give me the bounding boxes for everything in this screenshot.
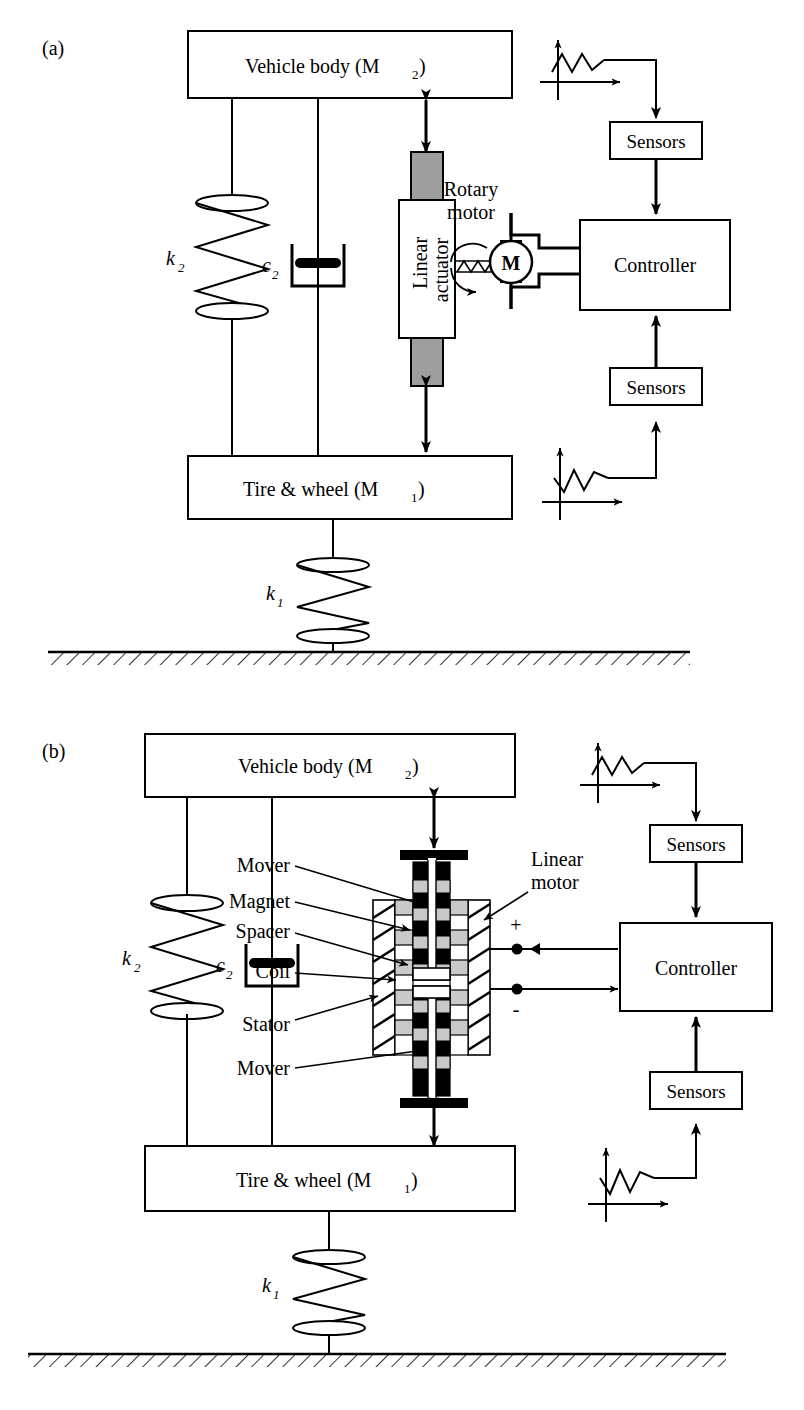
controller-label-b: Controller	[655, 957, 738, 979]
controller-box-b: Controller	[620, 923, 772, 1011]
vehicle-body-close-a: )	[419, 55, 426, 78]
tire-wheel-label-b: Tire & wheel (M	[236, 1169, 372, 1192]
tire-wheel-close-a: )	[418, 478, 425, 501]
panel-b-label: (b)	[42, 740, 65, 763]
sensors-bottom-label-b: Sensors	[666, 1081, 725, 1102]
spring-k2-label-b: k	[122, 947, 132, 969]
mover-bottom-plate-b	[400, 1098, 468, 1108]
actuator-label-line1-a: Linear	[409, 237, 431, 290]
damper-c2-sub-a: 2	[272, 267, 279, 282]
callout-mover-top-label-b: Mover	[237, 854, 291, 876]
coil-spacer-stack-left-b	[395, 900, 413, 1055]
motor-symbol-a: M	[502, 252, 521, 274]
tire-wheel-label-a: Tire & wheel (M	[243, 478, 379, 501]
sensors-bottom-box-a: Sensors	[610, 368, 702, 405]
terminal-minus-label-b: -	[513, 998, 520, 1020]
terminal-plus-node-b	[512, 944, 523, 955]
callout-mover-bottom-label-b: Mover	[237, 1057, 291, 1079]
tire-wheel-close-b: )	[411, 1169, 418, 1192]
tire-wheel-sub-b: 1	[404, 1181, 411, 1196]
damper-c2-label-a: c	[262, 254, 271, 276]
callout-linear-motor-line2-b: motor	[531, 871, 579, 893]
callout-stator-label-b: Stator	[242, 1013, 290, 1035]
ground-hatch-b	[28, 1354, 726, 1367]
controller-label-a: Controller	[614, 254, 697, 276]
spring-k1-sub-b: 1	[273, 1287, 280, 1302]
figure-canvas: (a) Vehicle body (M 2 ) k 2 c 2	[0, 0, 804, 1410]
sensors-top-box-a: Sensors	[610, 122, 702, 159]
sensors-top-label-a: Sensors	[626, 131, 685, 152]
controller-box-a: Controller	[580, 220, 730, 310]
sensors-top-box-b: Sensors	[650, 825, 742, 862]
tire-wheel-sub-a: 1	[411, 490, 418, 505]
spring-k1-label-a: k	[266, 582, 276, 604]
callout-spacer-label-b: Spacer	[236, 920, 291, 943]
vehicle-body-label-a: Vehicle body (M	[245, 55, 380, 78]
vehicle-body-close-b: )	[412, 755, 419, 778]
sensors-bottom-box-b: Sensors	[650, 1072, 742, 1109]
coil-spacer-stack-right-b	[450, 900, 468, 1055]
terminal-plus-label-b: +	[510, 914, 521, 936]
vehicle-body-box-b: Vehicle body (M 2 )	[145, 734, 515, 797]
tire-wheel-box-b: Tire & wheel (M 1 )	[145, 1146, 515, 1211]
sensors-top-label-b: Sensors	[666, 834, 725, 855]
spring-k1-sub-a: 1	[277, 595, 284, 610]
rotary-motor-label-line2-a: motor	[447, 201, 495, 223]
spring-k2-sub-b: 2	[134, 960, 141, 975]
mover-upper-b	[413, 858, 450, 980]
tire-wheel-box-a: Tire & wheel (M 1 )	[188, 456, 512, 519]
mover-lower-b	[413, 986, 450, 1098]
panel-a-label: (a)	[42, 37, 64, 60]
spring-k2-label-a: k	[166, 247, 176, 269]
suspension-system-figure: (a) Vehicle body (M 2 ) k 2 c 2	[0, 0, 804, 1410]
spring-k2-sub-a: 2	[178, 260, 185, 275]
callout-linear-motor-line1-b: Linear	[531, 848, 584, 870]
vehicle-body-label-b: Vehicle body (M	[238, 755, 373, 778]
actuator-label-line2-a: actuator	[430, 237, 452, 302]
damper-c2-label-b: c	[216, 954, 225, 976]
ground-hatch-a	[48, 652, 690, 665]
vehicle-body-sub-a: 2	[412, 67, 419, 82]
spring-k1-label-b: k	[262, 1274, 272, 1296]
actuator-upper-rod-a	[411, 152, 443, 200]
vehicle-body-box-a: Vehicle body (M 2 )	[188, 31, 512, 98]
vehicle-body-sub-b: 2	[405, 767, 412, 782]
damper-c2-sub-b: 2	[226, 967, 233, 982]
callout-coil-label-b: Coil	[256, 960, 291, 982]
terminal-minus-node-b	[512, 984, 523, 995]
sensors-bottom-label-a: Sensors	[626, 377, 685, 398]
actuator-lower-rod-a	[411, 338, 443, 386]
callout-magnet-label-b: Magnet	[229, 890, 291, 913]
rotary-motor-label-line1-a: Rotary	[444, 178, 498, 201]
